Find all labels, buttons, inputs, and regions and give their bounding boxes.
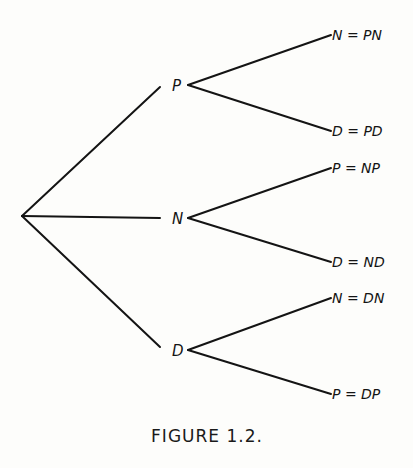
edge-p-to-leaf-0 — [188, 35, 331, 85]
labels: PN = PND = PDNP = NPD = NDDN = DNP = DP — [172, 27, 385, 402]
leaf-d-1: P = DP — [332, 386, 381, 402]
figure-caption: FIGURE 1.2. — [151, 426, 263, 446]
leaf-p-1: D = PD — [332, 123, 383, 139]
edge-root-to-d — [22, 216, 160, 347]
edge-p-to-leaf-1 — [188, 85, 331, 131]
edge-root-to-p — [22, 87, 160, 216]
edge-d-to-leaf-1 — [188, 350, 331, 394]
leaf-p-0: N = PN — [332, 27, 383, 43]
tree-diagram: PN = PND = PDNP = NPD = NDDN = DNP = DP … — [0, 0, 413, 468]
leaf-d-0: N = DN — [332, 290, 385, 306]
edge-n-to-leaf-0 — [188, 168, 331, 218]
edge-n-to-leaf-1 — [188, 218, 331, 262]
edge-root-to-n — [22, 216, 160, 218]
leaf-n-1: D = ND — [332, 254, 385, 270]
leaf-n-0: P = NP — [332, 160, 381, 176]
node-p: P — [172, 77, 182, 95]
node-n: N — [172, 210, 183, 228]
node-d: D — [172, 342, 184, 360]
edge-d-to-leaf-0 — [188, 298, 331, 350]
